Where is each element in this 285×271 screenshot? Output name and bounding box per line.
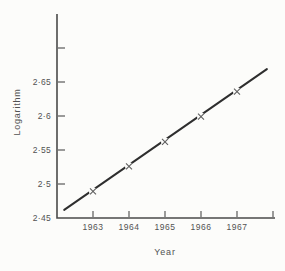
y-tick-label: 2·6 bbox=[38, 111, 51, 121]
x-tick-label: 1964 bbox=[119, 222, 140, 232]
x-axis-title: Year bbox=[154, 247, 175, 257]
x-tick-label: 1967 bbox=[227, 222, 248, 232]
y-tick-label: 2·65 bbox=[33, 77, 51, 87]
y-tick-label: 2·5 bbox=[38, 179, 51, 189]
x-tick-label: 1966 bbox=[191, 222, 212, 232]
y-tick-label: 2·45 bbox=[33, 213, 51, 223]
x-tick-label: 1965 bbox=[155, 222, 176, 232]
y-tick-label: 2·55 bbox=[33, 145, 51, 155]
x-tick-label: 1963 bbox=[83, 222, 104, 232]
chart-figure: 196319641965196619672·452·52·552·62·65 L… bbox=[0, 0, 285, 271]
y-axis-title: Logarithm bbox=[12, 88, 22, 135]
plot-area: 196319641965196619672·452·52·552·62·65 bbox=[0, 0, 285, 271]
axes-frame bbox=[57, 14, 275, 218]
